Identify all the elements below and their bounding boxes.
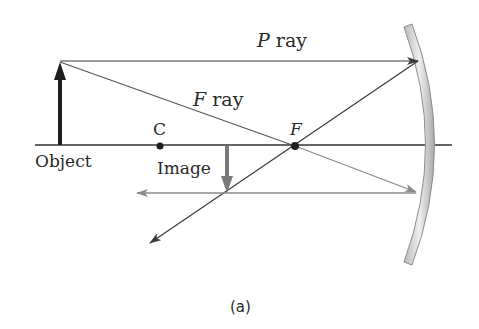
- f-ray-label-word: ray: [206, 88, 243, 110]
- p-ray-label-letter: P: [257, 29, 270, 51]
- f-ray-label-letter: F: [193, 88, 206, 110]
- p-ray-reflected: [150, 61, 418, 243]
- object-label: Object: [35, 153, 92, 170]
- ray-diagram: P ray F ray C F Object Image (a): [0, 0, 479, 329]
- f-ray-incident: [60, 62, 295, 146]
- figure-caption: (a): [230, 300, 251, 315]
- p-ray-label: P ray: [257, 31, 307, 50]
- image-label: Image: [157, 160, 211, 177]
- center-of-curvature-dot: [157, 143, 164, 150]
- focal-point-label: F: [290, 121, 302, 138]
- object-arrow-head: [54, 62, 66, 80]
- p-ray-label-word: ray: [270, 29, 307, 51]
- center-of-curvature-label: C: [153, 121, 166, 138]
- focal-point-dot: [291, 142, 299, 150]
- image-arrow-head: [221, 176, 233, 193]
- f-ray-label: F ray: [193, 90, 243, 109]
- f-ray-incident-continued: [295, 146, 416, 192]
